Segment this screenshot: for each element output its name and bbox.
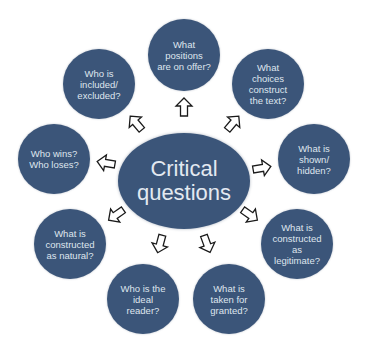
arrow-left-icon bbox=[95, 152, 118, 173]
arrow-up-left-icon bbox=[123, 110, 150, 137]
node-label: What is shown/ hidden? bbox=[297, 143, 331, 176]
node-lower-left: What is constructed as natural? bbox=[34, 209, 106, 279]
node-right: What is shown/ hidden? bbox=[278, 124, 350, 194]
node-label: Who wins? Who loses? bbox=[29, 148, 79, 170]
arrow-down-icon bbox=[195, 232, 219, 257]
arrow-down-icon bbox=[149, 232, 172, 256]
node-lower-right: What is constructed as legitimate? bbox=[261, 209, 333, 279]
node-label: What is constructed as legitimate? bbox=[272, 222, 321, 266]
node-top-right: What choices construct the text? bbox=[232, 49, 304, 119]
node-top: What positions are on offer? bbox=[148, 19, 220, 91]
node-bottom-right: What is taken for granted? bbox=[193, 264, 265, 334]
center-label: Critical questions bbox=[137, 157, 231, 205]
arrow-down-left-icon bbox=[103, 202, 130, 228]
center-ellipse: Critical questions bbox=[118, 133, 250, 229]
arrow-down-right-icon bbox=[237, 202, 264, 228]
node-label: Who is included/ excluded? bbox=[77, 68, 120, 101]
node-label: Who is the ideal reader? bbox=[121, 283, 166, 316]
node-label: What is taken for granted? bbox=[210, 283, 248, 316]
node-bottom-left: Who is the ideal reader? bbox=[107, 264, 179, 334]
node-label: What positions are on offer? bbox=[157, 39, 211, 72]
arrow-right-icon bbox=[251, 157, 274, 178]
node-label: What choices construct the text? bbox=[249, 62, 288, 106]
arrow-up-icon bbox=[175, 97, 193, 117]
arrow-up-right-icon bbox=[220, 110, 247, 137]
node-label: What is constructed as natural? bbox=[45, 228, 94, 261]
node-top-left: Who is included/ excluded? bbox=[63, 49, 135, 119]
node-left: Who wins? Who loses? bbox=[18, 124, 90, 194]
